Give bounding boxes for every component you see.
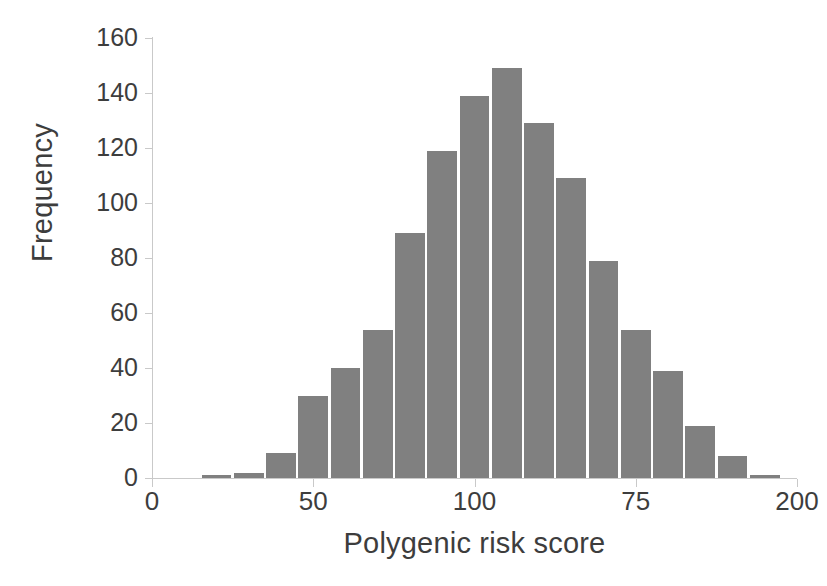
x-tick-label: 0 bbox=[107, 487, 197, 516]
histogram-bar bbox=[331, 368, 361, 478]
x-tick-label: 100 bbox=[430, 487, 520, 516]
histogram-bar bbox=[492, 68, 522, 478]
histogram-bar bbox=[202, 475, 232, 478]
histogram-bar bbox=[718, 456, 748, 478]
histogram-bar bbox=[589, 261, 619, 478]
histogram-bar bbox=[556, 178, 586, 478]
x-tick-label: 50 bbox=[268, 487, 358, 516]
histogram-bar bbox=[363, 330, 393, 479]
histogram-bar bbox=[266, 453, 296, 478]
histogram-figure: Frequency 020406080100120140160 05010075… bbox=[0, 0, 827, 586]
histogram-bar bbox=[234, 473, 264, 479]
bars-group bbox=[0, 0, 827, 478]
histogram-bar bbox=[685, 426, 715, 478]
histogram-bar bbox=[460, 96, 490, 478]
histogram-bar bbox=[298, 396, 328, 479]
histogram-bar bbox=[621, 330, 651, 479]
histogram-bar bbox=[395, 233, 425, 478]
x-axis-title: Polygenic risk score bbox=[152, 527, 797, 560]
histogram-bar bbox=[427, 151, 457, 478]
x-tick-label: 75 bbox=[591, 487, 681, 516]
histogram-bar bbox=[750, 475, 780, 478]
histogram-bar bbox=[653, 371, 683, 478]
y-tick-mark bbox=[145, 478, 152, 479]
x-tick-label: 200 bbox=[752, 487, 827, 516]
histogram-bar bbox=[524, 123, 554, 478]
